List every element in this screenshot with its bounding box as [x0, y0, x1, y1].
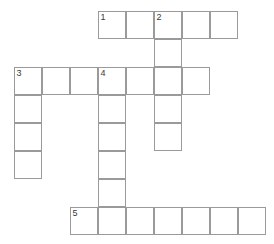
crossword-cell[interactable]: 4 [98, 67, 126, 95]
crossword-puzzle: 12345 [0, 0, 274, 244]
crossword-cell[interactable] [42, 67, 70, 95]
crossword-cell[interactable] [182, 67, 210, 95]
crossword-cell[interactable] [154, 67, 182, 95]
clue-number: 2 [157, 12, 162, 22]
crossword-cell[interactable] [182, 11, 210, 39]
crossword-cell[interactable] [154, 39, 182, 67]
crossword-cell[interactable]: 5 [70, 207, 98, 235]
crossword-cell[interactable] [126, 11, 154, 39]
crossword-cell[interactable] [98, 207, 126, 235]
crossword-cell[interactable] [14, 151, 42, 179]
crossword-cell[interactable] [98, 95, 126, 123]
clue-number: 3 [17, 68, 22, 78]
crossword-cell[interactable] [154, 95, 182, 123]
clue-number: 5 [73, 208, 78, 218]
crossword-cell[interactable] [210, 207, 238, 235]
crossword-cell[interactable] [14, 95, 42, 123]
crossword-cell[interactable] [182, 207, 210, 235]
crossword-cell[interactable]: 3 [14, 67, 42, 95]
clue-number: 1 [101, 12, 106, 22]
crossword-cell[interactable] [14, 123, 42, 151]
crossword-cell[interactable]: 2 [154, 11, 182, 39]
crossword-cell[interactable] [126, 207, 154, 235]
crossword-cell[interactable] [154, 123, 182, 151]
crossword-cell[interactable] [238, 207, 266, 235]
crossword-cell[interactable] [98, 123, 126, 151]
crossword-cell[interactable] [154, 207, 182, 235]
crossword-cell[interactable] [98, 179, 126, 207]
crossword-cell[interactable] [210, 11, 238, 39]
crossword-cell[interactable] [126, 67, 154, 95]
crossword-cell[interactable] [70, 67, 98, 95]
crossword-grid[interactable]: 12345 [0, 0, 274, 244]
crossword-cell[interactable] [98, 151, 126, 179]
clue-number: 4 [101, 68, 106, 78]
crossword-cell[interactable]: 1 [98, 11, 126, 39]
